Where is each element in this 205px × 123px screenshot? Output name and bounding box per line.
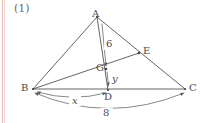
vertex-label-D: D bbox=[104, 92, 112, 102]
vertex-label-B: B bbox=[21, 83, 28, 93]
vertex-dot-C bbox=[184, 88, 186, 90]
vertex-dot-G bbox=[105, 68, 108, 71]
vertex-dot-E bbox=[138, 52, 141, 55]
geometry-figure: (1) bbox=[0, 0, 205, 123]
vertex-label-A: A bbox=[92, 9, 99, 19]
measure-label-6: 6 bbox=[106, 39, 112, 49]
measure-label-y: y bbox=[112, 74, 118, 84]
measure-label-8: 8 bbox=[103, 108, 109, 118]
measure-label-x: x bbox=[72, 96, 78, 106]
vertex-dot-B bbox=[32, 88, 34, 90]
vertex-label-G: G bbox=[96, 63, 104, 73]
vertex-label-E: E bbox=[143, 46, 150, 56]
vertex-label-C: C bbox=[189, 83, 197, 93]
